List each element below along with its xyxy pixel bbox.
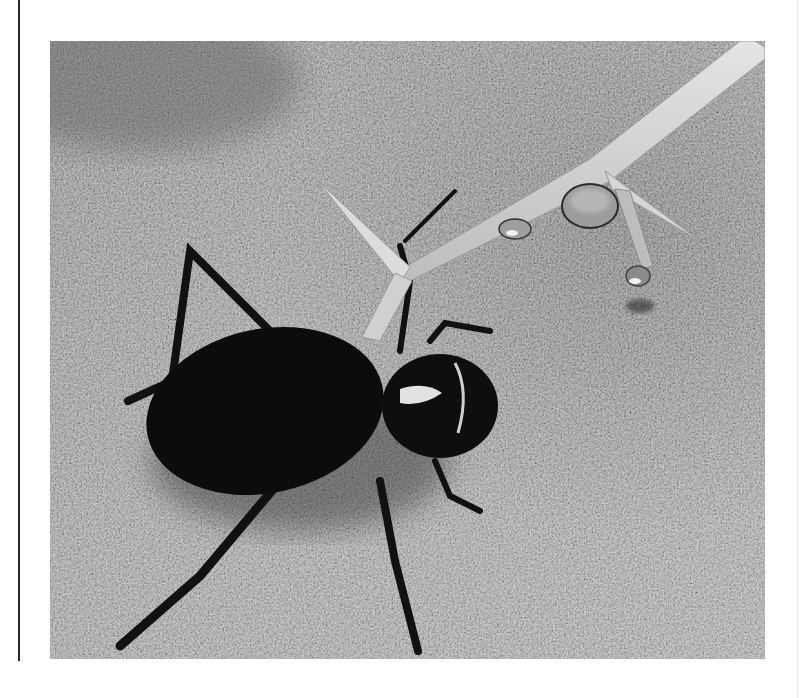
beetle-photograph [50,41,765,659]
right-margin-rule [797,0,798,698]
left-margin-rule [18,0,20,661]
